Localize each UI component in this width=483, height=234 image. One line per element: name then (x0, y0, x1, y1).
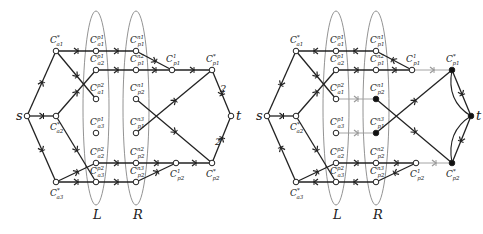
node-R4 (133, 130, 139, 136)
node-a3 (53, 179, 59, 185)
node-label-p1: C*p1 (206, 53, 219, 67)
node-a2 (293, 113, 299, 119)
edge-a1-s (267, 51, 296, 116)
node-R6 (133, 179, 139, 185)
node-R3 (373, 96, 379, 102)
sink-label: t (476, 108, 482, 123)
node-label-p2c: C1p2 (410, 168, 425, 182)
edge-R4-p1 (376, 70, 452, 133)
node-L2 (93, 67, 99, 73)
edge-weight-p2-t: 2 (214, 136, 221, 147)
node-label-a2: C*a2 (290, 121, 304, 134)
node-label-R3: Cn1p2 (130, 82, 145, 96)
node-label-L2: Cp1a2 (90, 53, 105, 66)
edge-s-a1 (27, 51, 56, 116)
node-label-R4: Cn3p1 (370, 116, 385, 130)
node-label-L5: Cp2a2 (330, 146, 345, 159)
node-label-R5: Cn2p2 (370, 146, 385, 160)
node-label-p2: C*p2 (206, 168, 220, 182)
node-label-L1: Cp1a1 (330, 34, 344, 47)
node-label-a3: C*a3 (50, 187, 64, 200)
source-label: s (16, 108, 23, 123)
edge-a2-L2 (56, 70, 96, 116)
node-L4 (93, 130, 99, 136)
node-label-L2: Cp1a2 (330, 53, 345, 66)
node-L2 (333, 67, 339, 73)
node-p1 (209, 67, 215, 73)
node-L6 (93, 179, 99, 185)
node-p1c (169, 67, 175, 73)
edge-R4-p1 (136, 70, 212, 133)
flow-network-diagrams: LR22stC*a1C*a2C*a3Cp1a1Cp1a2Cp2a1Cp1a3Cp… (0, 0, 483, 234)
node-a1 (293, 48, 299, 54)
diagram-left: LR22stC*a1C*a2C*a3Cp1a1Cp1a2Cp2a1Cp1a3Cp… (16, 11, 242, 222)
diagram-right: LRstC*a1C*a2C*a3Cp1a1Cp1a2Cp2a1Cp1a3Cp2a… (256, 11, 482, 222)
partition-R-label: R (372, 207, 383, 222)
node-label-a2: C*a2 (50, 121, 64, 134)
node-label-R6: Cn3p2 (130, 165, 145, 179)
node-label-p1: C*p1 (446, 53, 459, 67)
edge-weight-p1-t: 2 (219, 83, 226, 94)
node-p2 (449, 160, 455, 166)
node-s (24, 113, 30, 119)
node-t (228, 113, 234, 119)
sink-label: t (236, 108, 242, 123)
node-L4 (333, 130, 339, 136)
node-R4 (373, 130, 379, 136)
node-label-p2: C*p2 (446, 168, 460, 182)
node-p1 (449, 67, 455, 73)
node-label-L1: Cp1a1 (90, 34, 104, 47)
node-s (264, 113, 270, 119)
node-p2c (413, 160, 419, 166)
node-R6 (373, 179, 379, 185)
node-label-p1c: C1p1 (166, 53, 180, 67)
node-label-p2c: C1p2 (170, 168, 185, 182)
node-a1 (53, 48, 59, 54)
node-label-L3: Cp2a1 (90, 82, 104, 95)
node-p2 (209, 160, 215, 166)
node-label-L4: Cp1a3 (90, 116, 105, 129)
node-label-a1: C*a1 (50, 34, 63, 47)
node-label-R5: Cn2p2 (130, 146, 145, 160)
node-R3 (133, 96, 139, 102)
partition-R-label: R (132, 207, 143, 222)
node-label-R3: Cn1p2 (370, 82, 385, 96)
partition-L-label: L (92, 207, 102, 222)
edge-a2-L2 (296, 70, 336, 116)
node-label-R2: Cn2p1 (370, 53, 385, 67)
node-L3 (333, 96, 339, 102)
node-t (468, 113, 474, 119)
node-label-a1: C*a1 (290, 34, 303, 47)
source-label: s (256, 108, 263, 123)
node-R2 (373, 67, 379, 73)
node-label-R4: Cn3p1 (130, 116, 145, 130)
node-label-R2: Cn2p1 (130, 53, 145, 67)
node-label-R1: Cn1p1 (130, 34, 145, 48)
node-label-R1: Cn1p1 (370, 34, 385, 48)
node-label-p1c: C1p1 (406, 53, 420, 67)
figure: LR22stC*a1C*a2C*a3Cp1a1Cp1a2Cp2a1Cp1a3Cp… (0, 0, 483, 234)
node-R2 (133, 67, 139, 73)
partition-L-label: L (332, 207, 342, 222)
node-p1c (409, 67, 415, 73)
node-a3 (293, 179, 299, 185)
node-a2 (53, 113, 59, 119)
node-label-a3: C*a3 (290, 187, 304, 200)
node-label-L5: Cp2a2 (90, 146, 105, 159)
node-L3 (93, 96, 99, 102)
node-p2c (173, 160, 179, 166)
node-label-L3: Cp2a1 (330, 82, 344, 95)
node-L6 (333, 179, 339, 185)
node-label-R6: Cn3p2 (370, 165, 385, 179)
node-label-L4: Cp1a3 (330, 116, 345, 129)
